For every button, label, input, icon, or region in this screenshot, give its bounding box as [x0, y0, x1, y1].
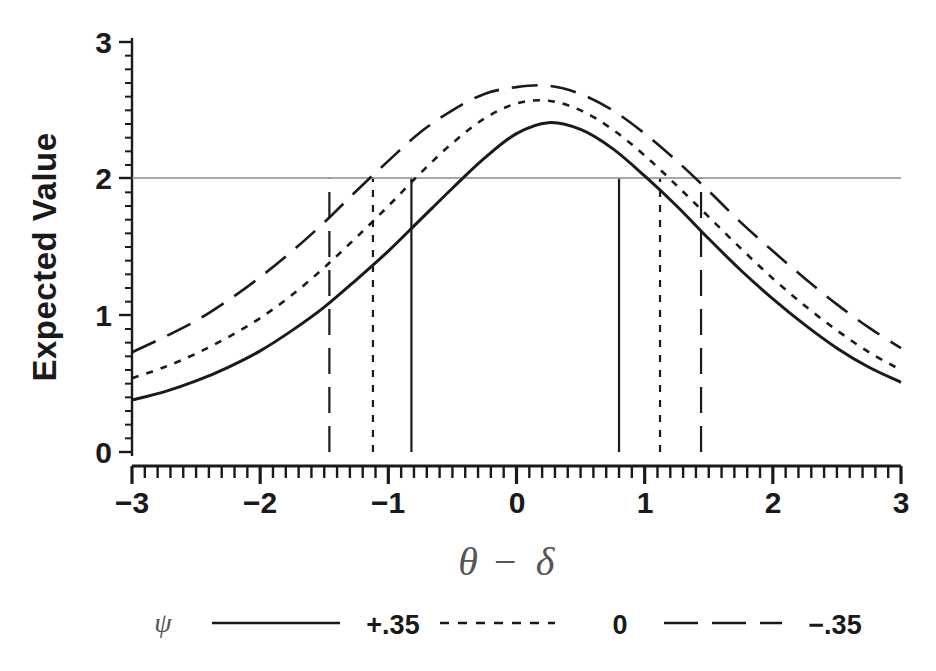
- x-axis-title-minus: −: [492, 539, 519, 584]
- legend-label-minus35: −.35: [808, 610, 861, 640]
- x-tick-label-m2: −2: [243, 486, 277, 519]
- x-tick-label-2: 2: [765, 486, 782, 519]
- x-tick-label-3: 3: [893, 486, 910, 519]
- y-tick-label-2: 2: [95, 162, 112, 195]
- chart-figure: 3 2 1 0 Expected Value −3 −2 −1 0 1 2 3 …: [0, 0, 936, 671]
- x-tick-label-0: 0: [509, 486, 526, 519]
- x-axis-title-delta: δ: [536, 539, 556, 584]
- y-tick-label-1: 1: [95, 299, 112, 332]
- x-tick-label-1: 1: [637, 486, 654, 519]
- y-axis-title: Expected Value: [26, 132, 63, 381]
- legend-label-plus35: +.35: [366, 610, 419, 640]
- x-axis-title-theta: θ: [458, 539, 478, 584]
- y-tick-label-0: 0: [95, 436, 112, 469]
- legend-symbol-psi: ψ: [154, 607, 172, 638]
- legend-label-zero: 0: [612, 610, 627, 640]
- x-axis-title: θ − δ: [458, 539, 556, 584]
- y-tick-label-3: 3: [95, 26, 112, 59]
- x-tick-label-m1: −1: [371, 486, 405, 519]
- x-tick-label-m3: −3: [115, 486, 149, 519]
- chart-svg: 3 2 1 0 Expected Value −3 −2 −1 0 1 2 3 …: [0, 0, 936, 671]
